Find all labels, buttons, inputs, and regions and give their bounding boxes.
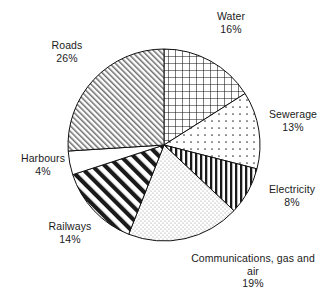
pie-label-water-percent: 16% — [176, 23, 286, 36]
pie-label-communications-percent: 19% — [172, 277, 334, 290]
pie-label-harbours: Harbours 4% — [4, 152, 82, 177]
pie-label-roads-name: Roads — [26, 39, 108, 52]
pie-slice-roads — [68, 49, 164, 151]
pie-label-communications-name-line2: air — [172, 265, 334, 278]
pie-label-electricity: Electricity 8% — [252, 183, 332, 208]
pie-label-water-name: Water — [176, 10, 286, 23]
pie-label-harbours-name: Harbours — [4, 152, 82, 165]
pie-label-sewerage-name: Sewerage — [252, 108, 334, 121]
pie-label-electricity-name: Electricity — [252, 183, 332, 196]
pie-label-communications: Communications, gas and air 19% — [172, 252, 334, 290]
pie-label-sewerage-percent: 13% — [252, 121, 334, 134]
pie-label-sewerage: Sewerage 13% — [252, 108, 334, 133]
pie-label-railways-name: Railways — [28, 220, 112, 233]
pie-label-electricity-percent: 8% — [252, 196, 332, 209]
pie-label-railways: Railways 14% — [28, 220, 112, 245]
pie-label-harbours-percent: 4% — [4, 165, 82, 178]
pie-label-communications-name-line1: Communications, gas and — [172, 252, 334, 265]
pie-label-roads-percent: 26% — [26, 52, 108, 65]
pie-chart-figure: Water 16% Sewerage 13% Electricity 8% Co… — [0, 0, 334, 301]
pie-label-water: Water 16% — [176, 10, 286, 35]
pie-label-railways-percent: 14% — [28, 233, 112, 246]
pie-slices — [68, 49, 260, 241]
pie-label-roads: Roads 26% — [26, 39, 108, 64]
